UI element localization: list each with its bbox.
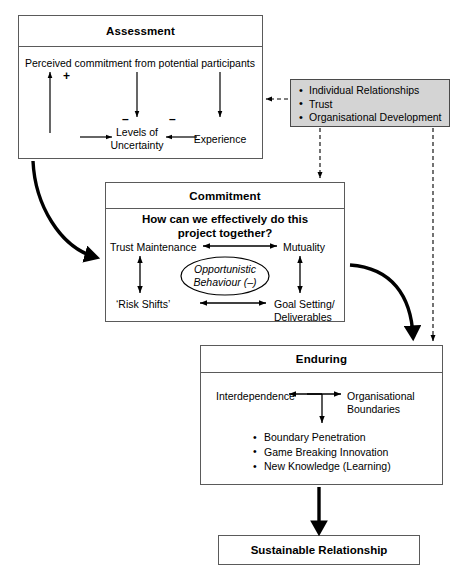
assessment-header: Assessment (19, 16, 262, 47)
commitment-node-risk-shifts: ‘Risk Shifts’ (116, 298, 170, 311)
factors-item: Individual Relationships (309, 84, 442, 98)
opportunistic-line-2: Behaviour (–) (193, 276, 256, 289)
factors-list: Individual Relationships Trust Organisat… (297, 84, 442, 125)
uncertainty-line-2: Uncertainty (110, 139, 163, 152)
assessment-node-uncertainty: Levels of Uncertainty (110, 126, 163, 151)
commitment-question-line-2: project together? (142, 226, 308, 240)
commitment-node-goal-setting: Goal Setting/ Deliverables (274, 298, 335, 323)
boundaries-line-1: Organisational (347, 390, 415, 403)
enduring-node-boundaries: Organisational Boundaries (347, 390, 415, 415)
opportunistic-behaviour-label: Opportunistic Behaviour (–) (193, 263, 256, 289)
diagram-canvas: Assessment Perceived commitment from pot… (0, 0, 461, 578)
commitment-to-enduring-arrow (350, 265, 413, 336)
boundaries-line-2: Boundaries (347, 403, 415, 416)
enduring-outcome-item: New Knowledge (Learning) (253, 459, 391, 474)
uncertainty-line-1: Levels of (110, 126, 163, 139)
enduring-outcome-item: Game Breaking Innovation (253, 445, 391, 460)
factors-item: Organisational Development (309, 111, 442, 125)
commitment-question-line-1: How can we effectively do this (142, 212, 308, 226)
sustainable-relationship-label: Sustainable Relationship (251, 544, 388, 556)
assessment-plus-sign: + (63, 70, 70, 83)
commitment-question: How can we effectively do this project t… (142, 212, 308, 240)
commitment-node-trust-maintenance: Trust Maintenance (110, 241, 197, 254)
goal-setting-line-1: Goal Setting/ (274, 298, 335, 311)
enduring-node-interdependence: Interdependence (216, 390, 295, 403)
factors-item: Trust (309, 98, 442, 112)
factors-box: Individual Relationships Trust Organisat… (290, 79, 450, 127)
enduring-outcome-item: Boundary Penetration (253, 430, 391, 445)
goal-setting-line-2: Deliverables (274, 311, 335, 324)
commitment-header-label: Commitment (189, 190, 260, 202)
enduring-header: Enduring (201, 346, 442, 373)
commitment-header: Commitment (106, 183, 344, 209)
assessment-node-experience: Experience (194, 133, 247, 146)
sustainable-relationship-box: Sustainable Relationship (218, 535, 420, 565)
assessment-statement: Perceived commitment from potential part… (25, 57, 255, 70)
enduring-header-label: Enduring (296, 353, 347, 365)
assessment-minus-sign-2: – (169, 113, 176, 126)
assessment-minus-sign-1: – (122, 113, 129, 126)
opportunistic-line-1: Opportunistic (193, 263, 256, 276)
commitment-node-mutuality: Mutuality (283, 241, 325, 254)
enduring-outcomes-list: Boundary Penetration Game Breaking Innov… (253, 430, 391, 474)
assessment-to-commitment-arrow (33, 161, 95, 257)
assessment-header-label: Assessment (106, 25, 175, 37)
